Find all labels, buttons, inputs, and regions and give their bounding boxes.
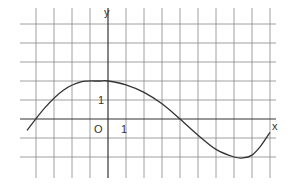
axes	[20, 8, 276, 178]
x-tick-label-1: 1	[121, 123, 127, 135]
origin-label: O	[94, 123, 103, 135]
y-tick-label-1: 1	[98, 94, 104, 106]
grid-lines	[20, 8, 276, 178]
function-graph: y x O 1 1	[0, 0, 296, 185]
x-axis-label: x	[272, 120, 278, 132]
y-axis-label: y	[104, 6, 110, 18]
